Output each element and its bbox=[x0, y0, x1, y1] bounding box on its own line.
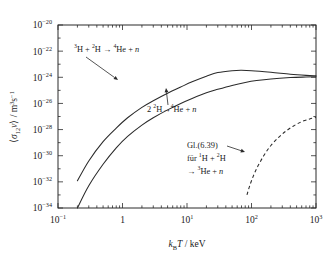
annot-dd-arrowhead bbox=[165, 88, 169, 92]
y-tick-label: 10−30 bbox=[33, 149, 52, 161]
y-tick-label: 10−34 bbox=[33, 201, 52, 213]
data-curves bbox=[77, 70, 316, 208]
y-tick-label: 10−28 bbox=[33, 123, 52, 135]
x-tick-label: 103 bbox=[310, 213, 323, 225]
y-axis-tick-labels: 10−3410−3210−3010−2810−2610−2410−2210−20 bbox=[33, 18, 52, 213]
annot-dd: 2 2H→4He + n bbox=[147, 103, 196, 114]
y-tick-label: 10−26 bbox=[33, 97, 52, 109]
figure-container: 10−11101102103 10−3410−3210−3010−2810−26… bbox=[0, 0, 334, 263]
y-tick-label: 10−24 bbox=[33, 71, 52, 83]
plot-annotations: 3H + 2H → 4He + n2 2H→4He + nGl.(6.39)fü… bbox=[74, 43, 245, 176]
x-axis-tick-labels: 10−11101102103 bbox=[50, 213, 322, 225]
x-tick-label: 101 bbox=[181, 213, 194, 225]
curve-series-2 bbox=[247, 117, 316, 195]
annot-dd-arrow bbox=[166, 92, 168, 105]
annot-gl639-arrowhead bbox=[240, 149, 245, 153]
x-axis-label: kBT / keV bbox=[169, 239, 206, 251]
x-tick-label: 102 bbox=[245, 213, 258, 225]
y-tick-label: 10−20 bbox=[33, 18, 52, 30]
y-axis-label: ⟨σ12v⟩ / m3s−1 bbox=[8, 91, 21, 143]
annot-gl639-arrow bbox=[227, 146, 241, 151]
annot-gl639-line-2: → 3He + n bbox=[187, 165, 223, 176]
annot-dt: 3H + 2H → 4He + n bbox=[74, 43, 139, 54]
annot-gl639-line-1: für 1H + 2H bbox=[187, 152, 226, 163]
y-tick-label: 10−32 bbox=[33, 175, 52, 187]
curve-series-0 bbox=[77, 70, 316, 180]
x-tick-label: 10−1 bbox=[50, 213, 66, 225]
annot-dt-arrowhead bbox=[113, 76, 118, 80]
reaction-rate-chart: 10−11101102103 10−3410−3210−3010−2810−26… bbox=[0, 0, 334, 263]
annot-dt-arrow bbox=[86, 57, 115, 78]
y-tick-label: 10−22 bbox=[33, 45, 52, 57]
annot-gl639-line-0: Gl.(6.39) bbox=[187, 141, 218, 150]
x-tick-label: 1 bbox=[120, 215, 125, 225]
